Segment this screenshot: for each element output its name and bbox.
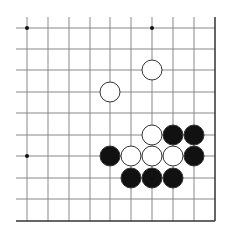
- black-stone: [142, 168, 162, 188]
- white-stone: [142, 60, 162, 80]
- board-edges: [16, 17, 215, 221]
- white-stone: [100, 82, 120, 102]
- star-point: [150, 26, 154, 30]
- black-stone: [163, 125, 183, 145]
- black-stone: [184, 125, 204, 145]
- star-point: [25, 154, 29, 158]
- white-stone: [121, 146, 141, 166]
- white-stone: [142, 146, 162, 166]
- black-stone: [121, 168, 141, 188]
- black-stone: [100, 146, 120, 166]
- black-stone: [163, 168, 183, 188]
- grid-lines: [16, 17, 215, 221]
- white-stone: [142, 125, 162, 145]
- white-stone: [163, 146, 183, 166]
- black-stone: [184, 146, 204, 166]
- star-point: [25, 26, 29, 30]
- go-board: [0, 0, 229, 236]
